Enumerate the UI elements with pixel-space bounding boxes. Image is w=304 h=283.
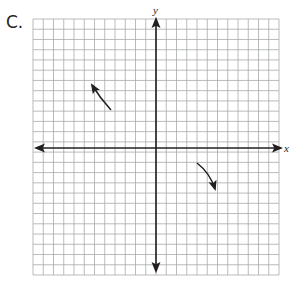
x-axis-label: x xyxy=(283,142,289,154)
coordinate-graph: x y xyxy=(0,0,304,283)
lower-right-arrow xyxy=(197,163,215,189)
y-axis-label: y xyxy=(152,4,158,16)
